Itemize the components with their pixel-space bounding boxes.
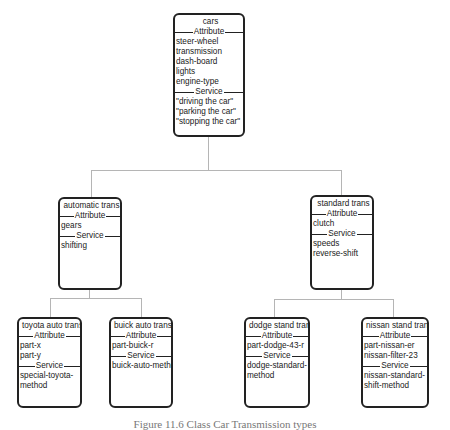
class-title: toyota auto trans [19,319,80,331]
class-box-toyota-auto-trans: toyota auto trans Attribute part-x part-… [17,317,82,408]
attribute-separator: Attribute [246,331,308,341]
service-item: dodge-standard- [246,361,308,371]
connector-to-nissan [393,299,394,317]
class-title: standard trans [312,197,372,209]
service-item: "stopping the car" [175,117,243,127]
attribute-item: part-nissan-er [363,341,427,351]
connector-automatic-down [89,289,90,298]
connector-to-buick [141,298,142,317]
connector-standard-down [341,289,342,299]
attribute-item: part-y [19,351,80,361]
connector-to-toyota [50,298,51,317]
service-item: method [19,381,80,391]
service-item: method [246,371,308,381]
connector-level1-horizontal [91,170,342,171]
service-item: shift-method [363,381,427,391]
attribute-separator: Attribute [363,331,427,341]
attribute-item: part-dodge-43-r [246,341,308,351]
attribute-separator: Attribute [60,211,120,221]
class-title: cars [175,15,243,27]
class-title: nissan stand tran [363,319,427,331]
attribute-separator: Attribute [312,209,372,219]
attribute-separator: Attribute [111,331,171,341]
service-separator: Service [312,229,372,239]
service-separator: Service [363,361,427,371]
connector-to-standard [341,170,342,195]
attribute-item: steer-wheel [175,37,243,47]
service-item: shifting [60,241,120,251]
attribute-item: part-x [19,341,80,351]
service-separator: Service [19,361,80,371]
class-box-buick-auto-trans: buick auto trans Attribute part-buick-r … [109,317,173,408]
class-box-nissan-stand-trans: nissan stand tran Attribute part-nissan-… [361,317,429,408]
attribute-separator: Attribute [19,331,80,341]
class-box-dodge-stand-trans: dodge stand trans Attribute part-dodge-4… [244,317,310,408]
figure-caption: Figure 11.6 Class Car Transmission types [0,418,450,430]
attribute-item: transmission [175,47,243,57]
attribute-item: nissan-filter-23 [363,351,427,361]
attribute-item: engine-type [175,77,243,87]
class-box-cars: cars Attribute steer-wheel transmission … [173,13,245,137]
service-separator: Service [246,351,308,361]
service-item: special-toyota- [19,371,80,381]
class-box-standard-trans: standard trans Attribute clutch Service … [310,195,374,290]
connector-auto-horizontal [50,298,142,299]
connector-cars-down [208,136,209,170]
connector-to-dodge [274,299,275,317]
service-item: nissan-standard- [363,371,427,381]
connector-std-horizontal [274,299,394,300]
service-item: "parking the car" [175,107,243,117]
attribute-separator: Attribute [175,27,243,37]
attribute-item: gears [60,221,120,231]
attribute-item: part-buick-r [111,341,171,351]
attribute-item: clutch [312,219,372,229]
service-separator: Service [60,231,120,241]
attribute-item: lights [175,67,243,77]
service-item: buick-auto-method [111,361,171,371]
class-title: dodge stand trans [246,319,308,331]
class-title: automatic trans [60,199,120,211]
connector-to-automatic [91,170,92,197]
class-title: buick auto trans [111,319,171,331]
attribute-item: dash-board [175,57,243,67]
service-item: speeds [312,239,372,249]
service-separator: Service [111,351,171,361]
service-separator: Service [175,87,243,97]
service-item: reverse-shift [312,249,372,259]
class-box-automatic-trans: automatic trans Attribute gears Service … [58,197,122,290]
service-item: "driving the car" [175,97,243,107]
